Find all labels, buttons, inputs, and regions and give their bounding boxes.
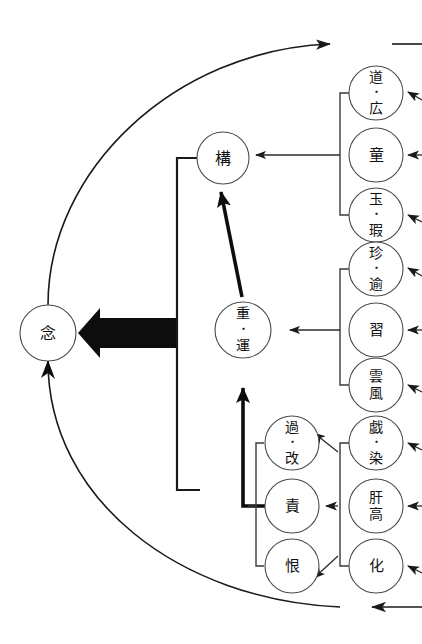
- node-dou-kou-label-sep: ・: [371, 86, 382, 99]
- node-gyoku-ka-label-sep: ・: [371, 208, 382, 221]
- node-ka[interactable]: 化: [349, 539, 403, 593]
- node-dou-kou-label-2: 広: [369, 100, 383, 116]
- node-nen-label: 念: [40, 324, 56, 343]
- node-gyoku-ka-label-1: 玉: [369, 191, 383, 207]
- right-group-1-bracket: [256, 93, 349, 215]
- external-incoming-arrows: [408, 92, 422, 573]
- right-group-2-bracket: [290, 269, 349, 385]
- node-dou-kou[interactable]: 道 ・ 広: [349, 66, 403, 120]
- node-kou-label: 構: [215, 149, 231, 168]
- node-kandaka-label-1: 肝: [369, 489, 383, 505]
- node-dou[interactable]: 童: [349, 128, 403, 182]
- node-juu-un-label-sep: ・: [238, 323, 249, 336]
- node-unpuu-label-1: 雲: [369, 368, 383, 384]
- node-kandaka-label-2: 高: [369, 506, 383, 522]
- node-chin-yu-label-sep: ・: [371, 262, 382, 275]
- diagram-svg: 念 構 重 ・ 運 過 ・ 改 責 恨: [0, 0, 422, 644]
- node-shuu-label: 習: [369, 321, 384, 339]
- node-unpuu[interactable]: 雲 風: [349, 358, 403, 412]
- left-structure-bracket: [177, 158, 200, 490]
- node-kandaka[interactable]: 肝 高: [349, 479, 403, 533]
- node-unpuu-label-2: 風: [369, 385, 383, 401]
- node-ka-kai-label-sep: ・: [287, 436, 298, 449]
- node-ka-kai[interactable]: 過 ・ 改: [265, 416, 319, 470]
- node-ka-label: 化: [369, 557, 384, 575]
- bold-arrow-to-root: [78, 308, 176, 358]
- node-dou-label: 童: [369, 146, 384, 164]
- diagram-canvas: 念 構 重 ・ 運 過 ・ 改 責 恨: [0, 0, 422, 644]
- node-nen[interactable]: 念: [20, 305, 76, 361]
- node-juu-un-label-1: 重: [236, 305, 250, 321]
- node-kon-label: 恨: [285, 557, 300, 575]
- node-chin-yu-label-1: 珍: [369, 245, 383, 261]
- node-seki[interactable]: 責: [265, 479, 319, 533]
- bold-arrow-sekinin-to-juun: [243, 388, 265, 506]
- bold-arrow-juun-to-kou: [221, 192, 242, 297]
- node-kou[interactable]: 構: [197, 132, 249, 184]
- node-juu-un[interactable]: 重 ・ 運: [215, 302, 271, 358]
- node-gi-sen[interactable]: 戯 ・ 染: [349, 416, 403, 470]
- node-gi-sen-label-1: 戯: [369, 419, 383, 435]
- node-gyoku-ka-label-2: 瑕: [369, 222, 383, 238]
- node-chin-yu-label-2: 逾: [369, 276, 383, 292]
- node-juu-un-label-2: 運: [236, 337, 250, 353]
- node-gi-sen-label-sep: ・: [371, 436, 382, 449]
- node-dou-kou-label-1: 道: [369, 69, 383, 85]
- node-ka-kai-label-2: 改: [285, 450, 299, 466]
- node-kon[interactable]: 恨: [265, 539, 319, 593]
- node-gyoku-ka[interactable]: 玉 ・ 瑕: [349, 188, 403, 242]
- node-ka-kai-label-1: 過: [285, 419, 299, 435]
- node-chin-yu[interactable]: 珍 ・ 逾: [349, 242, 403, 296]
- node-shuu[interactable]: 習: [349, 303, 403, 357]
- node-seki-label: 責: [285, 497, 300, 515]
- node-gi-sen-label-2: 染: [369, 450, 383, 466]
